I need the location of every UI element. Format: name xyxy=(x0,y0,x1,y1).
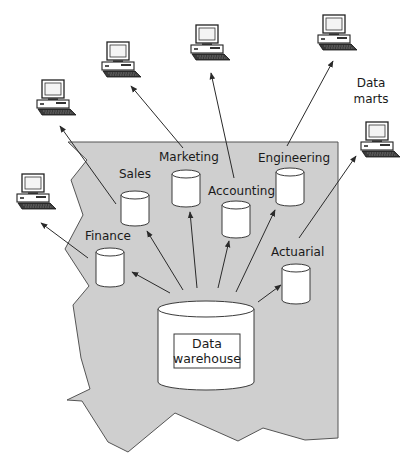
workstation-finance xyxy=(17,174,56,209)
database-cylinder-icon xyxy=(96,248,124,287)
arrow-marketing-to-workstation xyxy=(131,86,183,148)
desktop-computer-icon xyxy=(318,15,357,50)
desktop-computer-icon xyxy=(37,80,76,115)
desktop-computer-icon xyxy=(191,25,230,60)
warehouse-label-line1: Data xyxy=(192,336,222,351)
data-mart-label: Accounting xyxy=(208,184,275,198)
database-cylinder-icon xyxy=(276,168,304,206)
workstation-marketing xyxy=(102,42,141,77)
workstation-sales xyxy=(37,80,76,115)
data-mart-label: Marketing xyxy=(159,150,219,164)
data-mart-label: Engineering xyxy=(258,151,330,165)
desktop-computer-icon xyxy=(361,122,400,157)
data-marts-caption-line1: Data xyxy=(357,76,386,90)
data-marts-caption-line2: marts xyxy=(354,92,389,106)
database-cylinder-icon xyxy=(282,264,310,304)
workstation-actuarial xyxy=(361,122,400,157)
data-mart-label: Sales xyxy=(119,167,151,181)
workstation-engineering xyxy=(318,15,357,50)
arrow-engineering-to-workstation xyxy=(287,61,333,146)
data-mart-label: Finance xyxy=(85,229,131,243)
workstation-accounting xyxy=(191,25,230,60)
data-mart-sales: Sales xyxy=(119,167,151,226)
data-mart-label: Actuarial xyxy=(271,245,324,259)
data-warehouse: Data warehouse xyxy=(158,301,254,390)
data-warehouse-diagram: Sales Marketing Accounting Engineering F… xyxy=(0,0,419,454)
desktop-computer-icon xyxy=(102,42,141,77)
database-cylinder-icon xyxy=(172,170,200,207)
database-cylinder-icon xyxy=(222,201,250,238)
warehouse-label-line2: warehouse xyxy=(173,351,241,366)
desktop-computer-icon xyxy=(17,174,56,209)
database-cylinder-icon xyxy=(121,191,149,226)
